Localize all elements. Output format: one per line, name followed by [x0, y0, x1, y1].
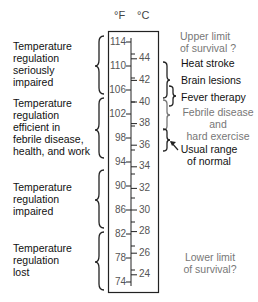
f-tick-94: 94	[104, 156, 126, 167]
label-febrile-disease: Febrile diseaseand hard exercise	[180, 106, 256, 142]
c-tick-28: 28	[139, 225, 150, 236]
brace-lost	[95, 232, 104, 290]
label-fever-therapy: Fever therapy	[181, 91, 246, 103]
label-seriously-impaired: Temperatureregulation seriouslyimpaired	[13, 40, 72, 88]
celsius-unit-label: °C	[137, 9, 149, 21]
c-tick-42: 42	[139, 74, 150, 85]
c-tick-38: 38	[139, 117, 150, 128]
f-tick-90: 90	[104, 180, 126, 191]
label-lower-limit: Lower limitof survival?	[181, 251, 239, 275]
c-tick-44: 44	[139, 52, 150, 63]
f-tick-102: 102	[104, 108, 126, 119]
c-tick-26: 26	[139, 247, 150, 258]
label-impaired: Temperatureregulation impaired	[13, 181, 72, 217]
f-tick-78: 78	[104, 252, 126, 263]
f-tick-74: 74	[104, 276, 126, 287]
c-tick-36: 36	[139, 139, 150, 150]
f-tick-98: 98	[104, 132, 126, 143]
label-brain-lesions: Brain lesions	[181, 74, 241, 86]
label-efficient: Temperatureregulation efficient infebril…	[13, 97, 90, 157]
brace-impaired	[95, 170, 104, 228]
label-lost: Temperatureregulation lost	[13, 242, 72, 278]
f-tick-106: 106	[104, 84, 126, 95]
f-tick-114: 114	[104, 36, 126, 47]
c-tick-40: 40	[139, 96, 150, 107]
f-tick-110: 110	[104, 60, 126, 71]
f-tick-86: 86	[104, 204, 126, 215]
c-tick-32: 32	[139, 182, 150, 193]
c-tick-34: 34	[139, 160, 150, 171]
c-tick-30: 30	[139, 204, 150, 215]
label-heat-stroke: Heat stroke	[181, 57, 235, 69]
label-upper-limit: Upper limitof survival ?	[180, 30, 236, 54]
brace-efficient	[95, 98, 104, 158]
f-tick-82: 82	[104, 228, 126, 239]
fahrenheit-unit-label: °F	[114, 9, 125, 21]
label-usual-normal: Usual rangeof normal	[180, 143, 238, 167]
brace-seriously-impaired	[95, 36, 104, 94]
c-tick-24: 24	[139, 268, 150, 279]
